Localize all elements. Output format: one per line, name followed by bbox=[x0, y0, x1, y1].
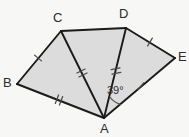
figure-fill bbox=[17, 28, 175, 118]
vertex-label-C: C bbox=[53, 11, 62, 24]
vertex-label-E: E bbox=[178, 50, 187, 63]
vertex-label-A: A bbox=[100, 122, 109, 135]
geometry-figure: B C D E A 39° bbox=[0, 0, 189, 137]
vertex-label-D: D bbox=[119, 7, 128, 20]
angle-label-39-degrees: 39° bbox=[107, 85, 124, 96]
vertex-label-B: B bbox=[3, 76, 12, 89]
geometry-canvas bbox=[0, 0, 189, 137]
